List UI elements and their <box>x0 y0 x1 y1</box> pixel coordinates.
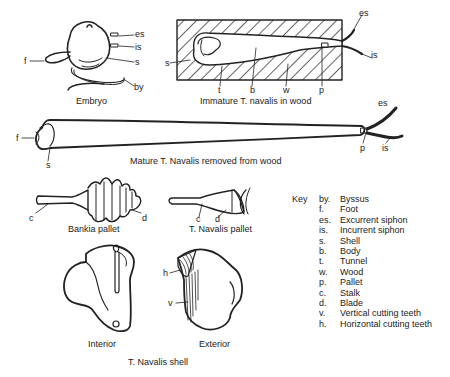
immature-label-b: b <box>250 85 255 95</box>
immature-label-t: t <box>218 85 221 95</box>
embryo-label-s: s <box>135 57 140 67</box>
embryo-label-by: by <box>134 82 144 92</box>
key-abbr: w. <box>319 267 340 277</box>
embryo-label-es: es <box>135 29 145 39</box>
key-row: v.Vertical cutting teeth <box>319 308 432 318</box>
embryo-drawing <box>30 22 134 90</box>
mature-label-p: p <box>360 143 365 153</box>
shell-exterior-caption: Exterior <box>199 339 230 349</box>
mature-label-s: s <box>46 160 51 170</box>
key-abbr: p. <box>319 277 340 287</box>
key-row: f.Foot <box>319 204 432 214</box>
mature-drawing <box>22 108 402 161</box>
shell-interior-drawing <box>64 245 134 331</box>
shell-interior-caption: Interior <box>88 339 116 349</box>
key-meaning: Horizontal cutting teeth <box>340 319 432 329</box>
shell-caption: T. Navalis shell <box>128 357 188 367</box>
key-meaning: Pallet <box>340 277 363 287</box>
key-meaning: Vertical cutting teeth <box>340 308 421 318</box>
immature-label-is: is <box>371 50 378 60</box>
key-abbr: c. <box>319 288 340 298</box>
mature-caption: Mature T. Navalis removed from wood <box>130 156 281 166</box>
immature-label-w: w <box>283 85 290 95</box>
mature-label-f: f <box>16 133 19 143</box>
bankia-pallet-drawing <box>36 178 141 222</box>
key-row: c.Stalk <box>319 288 432 298</box>
shell-label-v: v <box>168 298 173 308</box>
immature-label-es: es <box>359 8 369 18</box>
key-row: d.Blade <box>319 298 432 308</box>
embryo-caption: Embryo <box>76 96 107 106</box>
key-abbr: h. <box>319 319 340 329</box>
key-abbr: es. <box>319 215 340 225</box>
immature-label-p: p <box>319 85 324 95</box>
immature-caption: Immature T. navalis in wood <box>200 96 311 106</box>
key-meaning: Body <box>340 246 361 256</box>
key-legend: Key by.Byssus f.Foot es.Excurrent siphon… <box>292 194 432 329</box>
key-title: Key <box>292 194 308 204</box>
key-meaning: Foot <box>340 204 358 214</box>
embryo-label-is: is <box>135 42 142 52</box>
key-meaning: Byssus <box>340 194 369 204</box>
embryo-label-f: f <box>24 56 27 66</box>
key-meaning: Excurrent siphon <box>340 215 408 225</box>
key-meaning: Incurrent siphon <box>340 225 405 235</box>
key-row: s.Shell <box>319 236 432 246</box>
key-abbr: b. <box>319 246 340 256</box>
key-row: is.Incurrent siphon <box>319 225 432 235</box>
key-meaning: Wood <box>340 267 363 277</box>
bankia-label-d: d <box>142 213 147 223</box>
key-row: t.Tunnel <box>319 256 432 266</box>
key-abbr: v. <box>319 308 340 318</box>
key-meaning: Shell <box>340 236 360 246</box>
key-row: w.Wood <box>319 267 432 277</box>
key-row: p.Pallet <box>319 277 432 287</box>
bankia-label-c: c <box>29 213 34 223</box>
key-meaning: Stalk <box>340 288 360 298</box>
key-abbr: by. <box>319 194 340 204</box>
navalis-pallet-label-d: d <box>215 214 220 224</box>
immature-in-wood-drawing <box>170 15 372 86</box>
key-row: b.Body <box>319 246 432 256</box>
key-abbr: f. <box>319 204 340 214</box>
key-abbr: is. <box>319 225 340 235</box>
key-meaning: Tunnel <box>340 256 367 266</box>
navalis-pallet-caption: T. Navalis pallet <box>189 224 252 234</box>
key-abbr: t. <box>319 256 340 266</box>
shell-label-h: h <box>163 268 168 278</box>
mature-label-es: es <box>378 98 388 108</box>
key-row: es.Excurrent siphon <box>319 215 432 225</box>
key-meaning: Blade <box>340 298 363 308</box>
immature-label-s: s <box>165 58 170 68</box>
key-row: h.Horizontal cutting teeth <box>319 319 432 329</box>
mature-label-is: is <box>382 143 389 153</box>
key-abbr: d. <box>319 298 340 308</box>
navalis-pallet-label-c: c <box>196 214 201 224</box>
shell-exterior-drawing <box>170 249 242 329</box>
key-abbr: s. <box>319 236 340 246</box>
key-row: by.Byssus <box>319 194 432 204</box>
bankia-caption: Bankia pallet <box>68 224 120 234</box>
navalis-pallet-drawing <box>169 188 250 217</box>
